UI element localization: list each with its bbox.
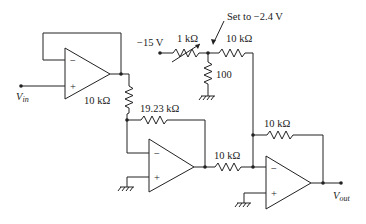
vout-label: Vout (333, 190, 350, 203)
label-r-series-3: 10 kΩ (214, 150, 240, 161)
label-r-feedback-3: 10 kΩ (264, 118, 290, 129)
label-pot: 1 kΩ (177, 33, 198, 44)
label-r-feedback-2: 19.23 kΩ (140, 103, 180, 114)
resistor-10k-feedback-3 (253, 131, 323, 183)
label-supply: −15 V (137, 37, 164, 48)
resistor-10k-buffer (121, 74, 133, 120)
opamp3-plus: + (271, 188, 277, 199)
opamp-2: − + (118, 120, 207, 192)
label-r-shunt: 100 (216, 69, 232, 80)
label-r-offset: 10 kΩ (226, 33, 252, 44)
opamp2-minus: − (154, 148, 160, 159)
opamp3-minus: − (271, 163, 277, 174)
opamp-3: − + (235, 156, 343, 209)
annotation-set-voltage: Set to −2.4 V (227, 11, 283, 22)
opamp1-minus: − (70, 55, 76, 66)
resistor-10k-series (205, 163, 253, 171)
opamp-1: − + (19, 33, 123, 99)
resistor-19k23-feedback (127, 116, 205, 168)
circuit-schematic: − + Vin 10 kΩ 19.23 kΩ − + 10 kΩ (0, 0, 366, 224)
label-r-buffer: 10 kΩ (84, 95, 110, 106)
vin-label: Vin (16, 91, 29, 104)
opamp2-plus: + (154, 172, 160, 183)
opamp1-plus: + (70, 81, 76, 92)
